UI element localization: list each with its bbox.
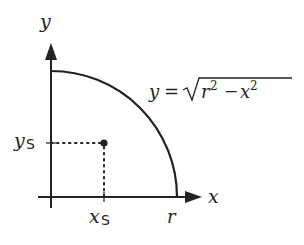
xs-label-main: x: [89, 205, 100, 227]
y-axis-label: y: [39, 10, 51, 32]
x-axis-label: x: [208, 185, 219, 207]
ys-label-sub: S: [26, 136, 35, 152]
equation-r-exponent: 2: [210, 79, 218, 93]
y-axis-arrow-icon: [45, 43, 57, 60]
x-axis-arrow-icon: [185, 191, 202, 203]
equation-equals: =: [164, 81, 179, 102]
equation-x: x: [240, 81, 250, 102]
equation-minus: −: [224, 81, 238, 101]
radius-label: r: [167, 206, 177, 227]
centroid-point: [100, 139, 107, 146]
equation-x-exponent: 2: [250, 79, 258, 93]
curve-equation: y = r 2 − x 2: [148, 78, 292, 102]
ys-label-main: y: [13, 129, 25, 151]
quarter-circle-diagram: y x r x S y S y = r 2 − x 2: [0, 0, 304, 245]
equation-lhs: y: [148, 81, 160, 102]
xs-label-sub: S: [101, 212, 110, 228]
